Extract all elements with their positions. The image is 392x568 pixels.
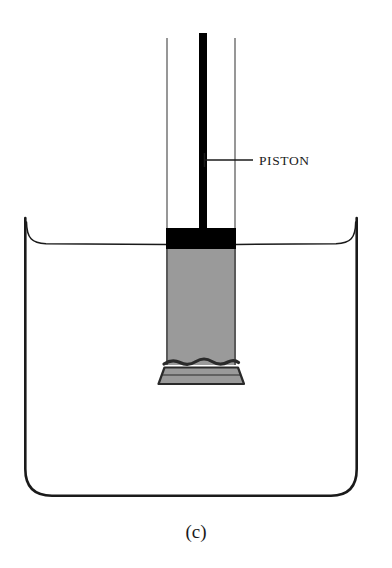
piston-leader-line	[204, 153, 253, 167]
piston-in-water-diagram: PISTON (c)	[0, 0, 392, 568]
piston-head	[166, 228, 236, 249]
water-surface-line	[27, 222, 167, 244]
tube-bottom-flared-band	[159, 368, 245, 385]
piston-label: PISTON	[259, 153, 310, 168]
piston-rod	[199, 33, 207, 232]
figure-caption: (c)	[185, 521, 206, 543]
gas-column	[167, 248, 236, 365]
water-surface-line-right	[236, 222, 356, 244]
